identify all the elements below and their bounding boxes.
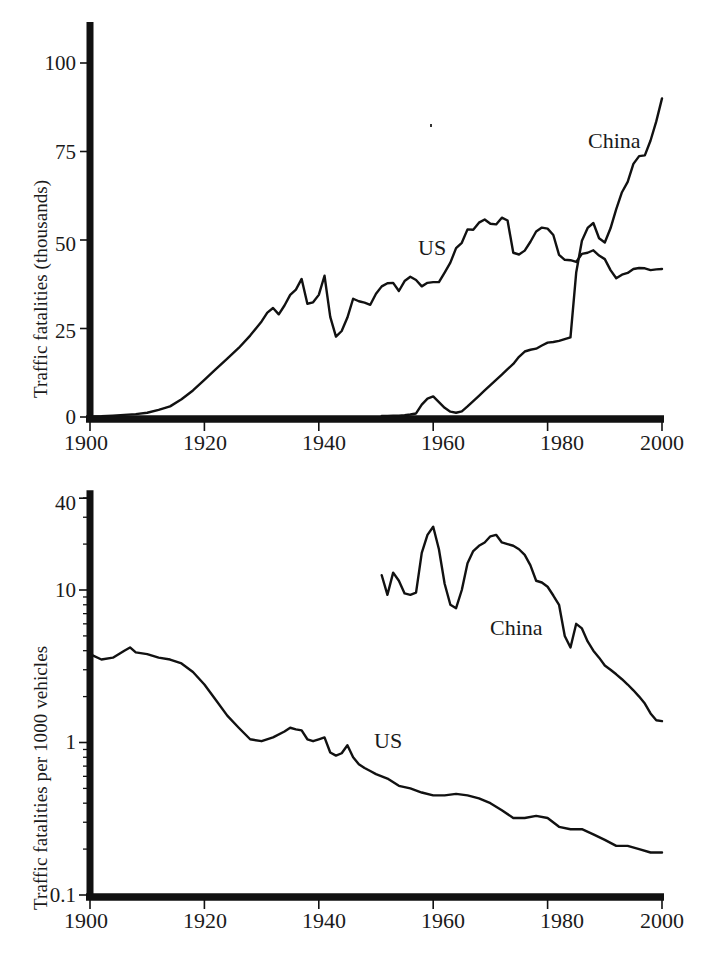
bottom-chart-panel: Traffic fatalities per 1000 vehicles 40 … <box>0 470 710 954</box>
bottom-y-axis-line <box>87 490 94 898</box>
bottom-x-axis-line <box>86 893 664 901</box>
top-chart-panel: Traffic fatalities (thousands) 100 75 50… <box>0 0 710 470</box>
bottom-tick-marks <box>79 498 662 909</box>
top-series-line-china <box>382 98 662 416</box>
top-chart-plot <box>0 0 710 470</box>
bottom-chart-plot <box>0 470 710 954</box>
top-axes <box>80 22 664 431</box>
bottom-series-line-us <box>90 647 662 852</box>
traffic-fatalities-figure: Traffic fatalities (thousands) 100 75 50… <box>0 0 710 954</box>
bottom-series-line-china <box>382 527 662 721</box>
bottom-axes <box>79 490 664 909</box>
top-tick-marks <box>80 63 662 431</box>
top-series-line-us <box>90 218 662 417</box>
top-x-axis-line <box>86 415 664 423</box>
top-y-axis-line <box>87 22 94 420</box>
